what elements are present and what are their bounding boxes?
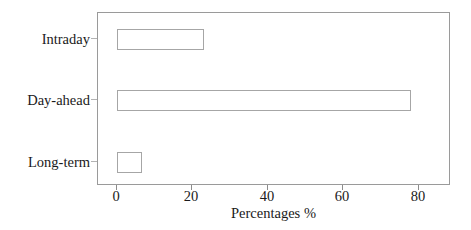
y-axis-label-day-ahead: Day-ahead [0,92,90,109]
plot-area [97,12,450,185]
bar-long-term [117,152,142,173]
bar-intraday [117,29,204,50]
bar-day-ahead [117,90,411,111]
x-tick-label-20: 20 [171,188,211,205]
x-tick-label-60: 60 [322,188,362,205]
y-axis-label-intraday: Intraday [0,31,90,48]
y-axis-label-long-term: Long-term [0,154,90,171]
x-axis-title: Percentages % [97,205,450,222]
x-tick-label-0: 0 [96,188,136,205]
x-tick-label-80: 80 [398,188,438,205]
bar-chart-figure: Intraday Day-ahead Long-term 0 20 40 60 … [0,0,471,230]
x-tick-label-40: 40 [247,188,287,205]
